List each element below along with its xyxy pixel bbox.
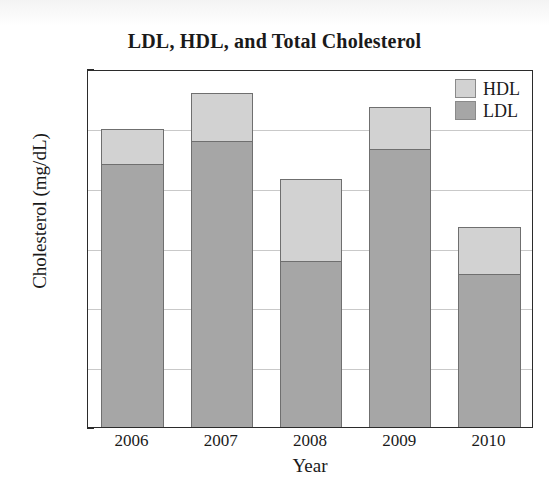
bar-group-2006 <box>101 129 163 427</box>
chart-title: LDL, HDL, and Total Cholesterol <box>0 30 549 53</box>
x-tick-label-2006: 2006 <box>87 432 177 450</box>
bar-segment-hdl-2006 <box>101 129 163 165</box>
chart-legend: HDL LDL <box>455 79 520 120</box>
bar-group-2010 <box>458 227 520 427</box>
bar-group-2008 <box>280 179 342 427</box>
bar-segment-hdl-2008 <box>280 179 342 261</box>
x-tick-label-2008: 2008 <box>265 432 355 450</box>
bar-segment-ldl-2007 <box>191 141 253 427</box>
y-axis-title: Cholesterol (mg/dL) <box>29 51 51 371</box>
x-tick-label-2007: 2007 <box>176 432 266 450</box>
legend-item-hdl: HDL <box>455 79 520 98</box>
x-axis-title: Year <box>87 455 533 477</box>
bar-group-2009 <box>369 107 431 427</box>
legend-label-hdl: HDL <box>483 80 520 98</box>
bar-segment-ldl-2010 <box>458 274 520 427</box>
bar-series-container <box>88 71 532 427</box>
legend-swatch-hdl <box>455 79 476 98</box>
bar-segment-hdl-2009 <box>369 107 431 149</box>
bar-segment-hdl-2007 <box>191 93 253 141</box>
bar-segment-ldl-2009 <box>369 149 431 427</box>
x-tick-label-2009: 2009 <box>354 432 444 450</box>
legend-label-ldl: LDL <box>483 102 518 120</box>
legend-swatch-ldl <box>455 101 476 120</box>
cholesterol-bar-chart-figure: LDL, HDL, and Total Cholesterol Choleste… <box>0 0 549 492</box>
x-tick-label-2010: 2010 <box>443 432 533 450</box>
bar-segment-hdl-2010 <box>458 227 520 275</box>
legend-item-ldl: LDL <box>455 101 520 120</box>
bar-segment-ldl-2006 <box>101 164 163 427</box>
plot-area: HDL LDL <box>87 70 533 428</box>
bar-segment-ldl-2008 <box>280 261 342 427</box>
bar-group-2007 <box>191 93 253 427</box>
